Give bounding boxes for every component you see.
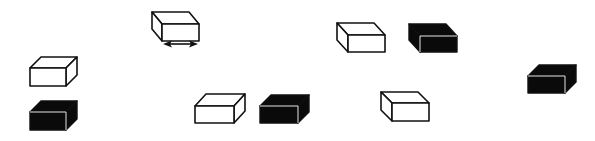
black-box-icon bbox=[528, 65, 576, 93]
boxes-diagram bbox=[0, 0, 595, 141]
black-box-icon bbox=[409, 24, 457, 52]
white-box-icon bbox=[195, 94, 245, 123]
box-front-face bbox=[30, 112, 66, 130]
black-box-icon bbox=[30, 101, 77, 130]
white-box-icon bbox=[381, 92, 429, 121]
box-front-face bbox=[528, 76, 565, 93]
diagram-canvas bbox=[0, 0, 595, 141]
black-box-icon bbox=[260, 95, 309, 123]
box-front-face bbox=[30, 68, 66, 86]
box-front-face bbox=[420, 36, 457, 52]
white-box-icon bbox=[152, 12, 199, 41]
box-front-face bbox=[195, 106, 234, 123]
box-front-face bbox=[260, 106, 298, 123]
white-box-icon bbox=[30, 57, 77, 86]
white-box-icon bbox=[337, 23, 385, 52]
box-front-face bbox=[348, 35, 385, 52]
box-front-face bbox=[162, 24, 199, 41]
box-front-face bbox=[392, 103, 429, 121]
